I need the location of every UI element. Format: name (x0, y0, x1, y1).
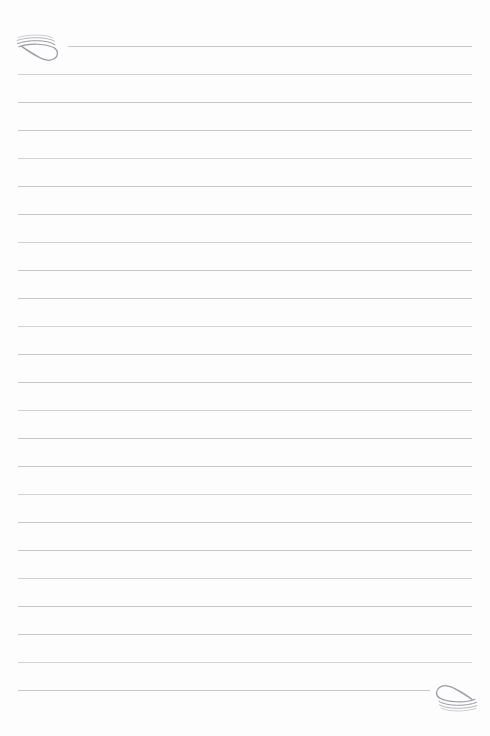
writing-area[interactable] (18, 46, 472, 706)
note-page (0, 0, 490, 736)
